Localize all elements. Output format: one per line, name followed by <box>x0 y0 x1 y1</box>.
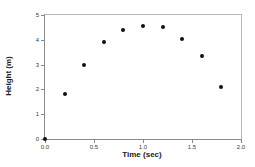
y-axis-tick-mark <box>41 65 45 66</box>
y-axis-title: Height (m) <box>4 14 14 138</box>
data-point <box>82 63 86 67</box>
y-axis-tick-mark <box>41 40 45 41</box>
x-axis-title: Time (sec) <box>44 151 240 159</box>
x-axis-tick-mark <box>192 139 193 143</box>
x-axis-tick-mark <box>94 139 95 143</box>
y-axis-tick-label: 4 <box>36 37 39 43</box>
y-axis-tick-label: 1 <box>36 111 39 117</box>
y-axis-tick-label: 2 <box>36 86 39 92</box>
data-point <box>141 24 145 28</box>
x-axis-tick-label: 1.5 <box>188 144 196 150</box>
y-axis-title-text: Height (m) <box>5 56 13 96</box>
x-axis-tick-label: 2.0 <box>237 144 245 150</box>
data-point <box>161 25 165 29</box>
data-point <box>180 37 184 41</box>
y-axis-tick-mark <box>41 114 45 115</box>
y-axis-tick-label: 3 <box>36 62 39 68</box>
data-point <box>63 92 67 96</box>
y-axis-tick-label: 0 <box>36 136 39 142</box>
data-point <box>121 28 125 32</box>
data-point <box>219 85 223 89</box>
x-axis-tick-label: 0.5 <box>90 144 98 150</box>
x-axis-tick-label: 0.0 <box>41 144 49 150</box>
scatter-chart: 012345 0.00.51.01.52.0 Height (m) Time (… <box>0 0 255 167</box>
data-point <box>200 54 204 58</box>
plot-area: 012345 0.00.51.01.52.0 <box>44 14 242 140</box>
x-axis-tick-mark <box>143 139 144 143</box>
data-point <box>102 40 106 44</box>
y-axis-tick-label: 5 <box>36 12 39 18</box>
x-axis-tick-mark <box>241 139 242 143</box>
data-point <box>43 137 47 141</box>
y-axis-tick-mark <box>41 89 45 90</box>
y-axis-tick-mark <box>41 15 45 16</box>
